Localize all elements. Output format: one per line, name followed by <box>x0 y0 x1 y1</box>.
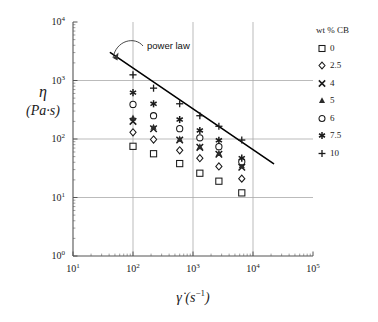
x-axis-label: γ̇ (s−1) <box>118 288 268 306</box>
legend: wt % CB 02.54567.510 <box>316 26 349 165</box>
y-axis-label: η (Pa·s) <box>14 82 72 120</box>
legend-items: 02.54567.510 <box>316 42 349 159</box>
y-tick-label-1e2: 102 <box>39 132 65 144</box>
power-law-annotation: power law <box>147 40 190 51</box>
series-4wt <box>130 118 245 170</box>
legend-item-6wt[interactable]: 6 <box>316 112 349 124</box>
x-tick-label-1e5: 105 <box>300 262 326 274</box>
legend-item-10wt[interactable]: 10 <box>316 147 349 159</box>
triangle-filled-icon <box>316 95 328 106</box>
legend-label: 7.5 <box>330 131 341 140</box>
x-tick-label-1e1: 101 <box>60 262 86 274</box>
legend-title: wt % CB <box>316 26 349 35</box>
y-tick-label-1e1: 101 <box>39 191 65 203</box>
series-7.5wt <box>130 89 245 162</box>
x-tick-label-1e4: 104 <box>240 262 266 274</box>
square-open-icon <box>316 43 328 54</box>
legend-label: 4 <box>330 79 335 88</box>
x-tick-label-1e3: 103 <box>180 262 206 274</box>
plus-icon <box>316 148 328 159</box>
diamond-open-icon <box>316 60 328 71</box>
legend-item-5wt[interactable]: 5 <box>316 95 349 107</box>
y-tick-label-1e3: 103 <box>39 74 65 86</box>
y-axis-units: (Pa·s) <box>14 102 72 120</box>
x-axis-units-open: (s <box>185 290 195 305</box>
chart-figure: η (Pa·s) γ̇ (s−1) 104103102101100 101102… <box>0 0 378 322</box>
legend-label: 2.5 <box>330 61 341 70</box>
y-tick-label-1e4: 104 <box>39 15 65 27</box>
legend-item-7-5wt[interactable]: 7.5 <box>316 130 349 142</box>
y-tick-label-1e0: 100 <box>39 249 65 261</box>
circle-open-icon <box>316 113 328 124</box>
series-0wt <box>130 143 245 196</box>
cross-x-icon <box>316 78 328 89</box>
legend-item-4wt[interactable]: 4 <box>316 77 349 89</box>
asterisk-icon <box>316 130 328 141</box>
legend-label: 6 <box>330 114 335 123</box>
legend-item-0wt[interactable]: 0 <box>316 42 349 54</box>
x-tick-label-1e2: 102 <box>120 262 146 274</box>
x-axis-units-close: ) <box>205 290 210 305</box>
legend-label: 10 <box>330 149 339 158</box>
legend-item-2-5wt[interactable]: 2.5 <box>316 60 349 72</box>
series-2.5wt <box>130 129 245 182</box>
legend-label: 0 <box>330 44 335 53</box>
series-5wt <box>130 114 245 168</box>
legend-label: 5 <box>330 96 335 105</box>
data-points <box>129 71 245 196</box>
gridlines <box>73 22 313 256</box>
x-axis-units-exponent: −1 <box>195 288 205 298</box>
x-axis-symbol: γ̇ <box>176 290 182 305</box>
power-law-arrow <box>113 41 143 61</box>
